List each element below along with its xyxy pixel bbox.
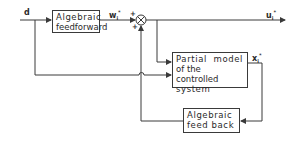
plant-model-label-2: of the controlled <box>176 64 244 84</box>
feedback-label-2: feed back <box>187 120 236 130</box>
feedback-label-1: Algebraic <box>187 110 236 120</box>
plant-model-label-1: Partial model <box>176 54 244 64</box>
w-label: wi* <box>109 9 121 21</box>
feedforward-label-1: Algebraic <box>56 12 96 22</box>
plant-model-block: Partial model of the controlled system <box>172 52 248 88</box>
x-label: xi* <box>252 52 262 64</box>
u-branch-line <box>157 20 171 62</box>
plant-model-label-3: system <box>176 84 244 94</box>
feedforward-label-2: feedforward <box>56 22 96 32</box>
junction-sign-bottom-left: + <box>132 23 138 31</box>
feedforward-block: Algebraic feedforward <box>52 10 100 33</box>
d-label: d <box>24 8 30 17</box>
junction-sign-left: + <box>130 10 136 18</box>
u-label: ui* <box>266 9 276 21</box>
connection-lines <box>0 0 299 147</box>
feedback-block: Algebraic feed back <box>183 108 240 133</box>
